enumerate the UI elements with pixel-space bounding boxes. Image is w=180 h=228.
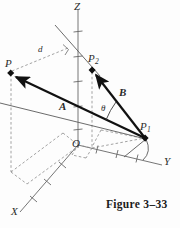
p2-projection-edge-2 <box>86 148 92 158</box>
p2-projection-edge-1 <box>78 145 92 148</box>
x-axis-ticks <box>30 162 66 202</box>
point-p2-subscript: 2 <box>95 57 99 66</box>
y-axis-line <box>78 145 162 165</box>
vector-a-label: A <box>59 101 66 112</box>
point-p2-letter: P <box>88 52 95 64</box>
y-axis-ticks <box>96 146 138 163</box>
p-projection-edge-1 <box>11 133 63 172</box>
p-projection-edge-4 <box>27 145 80 184</box>
point-p1-subscript: 1 <box>147 125 151 134</box>
point-p2-marker <box>89 67 96 74</box>
z-axis-label: Z <box>74 1 80 12</box>
angle-theta-label: θ <box>101 104 105 113</box>
figure-3-33: Z Y X O P P1 P2 A B d θ Figure 3–33 <box>0 0 180 228</box>
point-p2-label: P2 <box>88 53 99 66</box>
coordinate-diagram <box>0 0 180 228</box>
axis-lines <box>20 9 162 212</box>
y-axis-label: Y <box>164 156 170 167</box>
distance-d-label: d <box>38 45 43 54</box>
x-axis-line <box>20 145 78 212</box>
p-projection-edge-3 <box>11 172 27 184</box>
origin-label: O <box>72 138 80 149</box>
x-axis-label: X <box>11 206 18 217</box>
point-p1-letter: P <box>140 120 147 132</box>
right-angle-mark <box>63 45 69 56</box>
point-p-label: P <box>5 58 12 69</box>
point-p1-label: P1 <box>140 121 151 134</box>
figure-caption: Figure 3–33 <box>106 198 168 210</box>
base-line-to-p1 <box>0 103 146 139</box>
p1-projection-edge-3 <box>92 130 101 147</box>
p2-projection-edge-3 <box>72 155 86 158</box>
p1-arc-edge <box>143 139 148 160</box>
vector-b-label: B <box>119 87 126 98</box>
angle-theta-arc <box>106 102 116 120</box>
